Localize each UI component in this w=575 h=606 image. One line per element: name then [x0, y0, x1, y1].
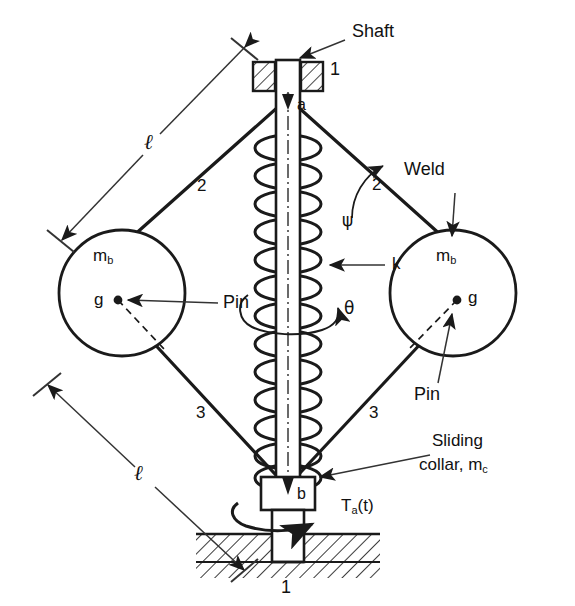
label-mass-left-sub: b [107, 254, 113, 266]
leader-shaft [300, 40, 345, 58]
dim-upper-line-top [160, 47, 245, 134]
label-length-lower: ℓ [134, 463, 143, 484]
label-sliding-collar-line1: Sliding [432, 432, 483, 449]
governor-schematic-svg [0, 0, 575, 606]
label-joint-b: b [297, 486, 306, 502]
label-pin-right: Pin [414, 385, 440, 403]
label-weld: Weld [404, 160, 445, 178]
label-joint-a: a [297, 97, 306, 113]
label-spring-k: k [392, 255, 401, 272]
label-sliding-collar-line2: collar, mc [419, 456, 488, 475]
label-mass-left-main: m [93, 246, 107, 265]
label-mass-left: mb [93, 247, 113, 266]
leader-collar [320, 455, 430, 477]
shaft-lower-stub [272, 510, 304, 562]
label-link-lower-right: 3 [369, 404, 378, 421]
label-link-upper-left: 2 [197, 177, 206, 194]
dim-lower-line-top [48, 385, 135, 467]
diagram-canvas: Shaft 1 a Weld 2 2 3 3 ℓ ℓ ψ k θ mb mb g… [0, 0, 575, 606]
label-mass-right-main: m [436, 246, 450, 265]
label-link-lower-left: 3 [196, 404, 205, 421]
label-length-upper: ℓ [144, 132, 153, 153]
label-mass-right-sub: b [450, 254, 456, 266]
label-angle-psi: ψ [342, 212, 353, 229]
label-mass-right: mb [436, 247, 456, 266]
label-link-upper-right: 2 [372, 176, 381, 193]
flyball-left [59, 230, 185, 356]
label-ground-top: 1 [330, 60, 340, 78]
label-pin-left: Pin [223, 293, 249, 311]
label-torque-arg: (t) [358, 496, 374, 515]
label-collar-text: collar, m [419, 455, 482, 474]
dim-upper-tick-bot [47, 230, 74, 252]
label-torque: Ta(t) [341, 497, 374, 516]
dim-upper-line-bot [62, 155, 143, 240]
label-angle-theta: θ [344, 300, 354, 317]
label-cg-left: g [94, 291, 103, 308]
label-torque-main: T [341, 496, 351, 515]
label-collar-sub: c [482, 463, 488, 475]
label-ground-bottom: 1 [281, 578, 291, 596]
sliding-collar [261, 477, 315, 510]
bearing-block-right [301, 62, 323, 91]
label-shaft: Shaft [352, 22, 394, 40]
label-cg-right: g [468, 289, 477, 306]
vertical-shaft [276, 60, 300, 485]
bearing-block-left [253, 62, 275, 91]
